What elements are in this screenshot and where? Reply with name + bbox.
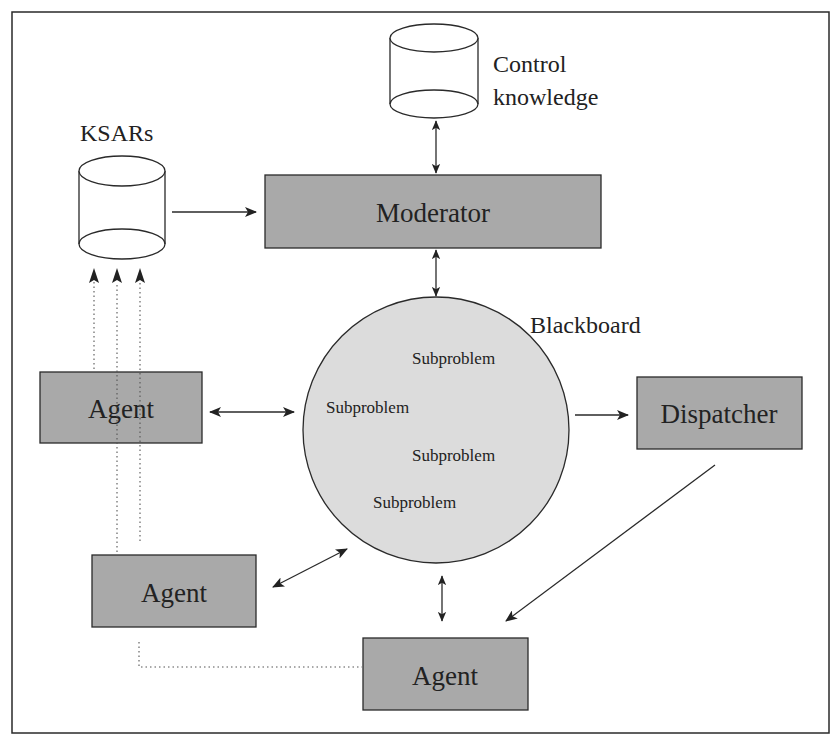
subproblem-item: Subproblem bbox=[412, 349, 495, 368]
agent-node-3: Agent bbox=[363, 638, 528, 710]
subproblem-item: Subproblem bbox=[326, 398, 409, 417]
agent-node-1: Agent bbox=[40, 372, 202, 443]
subproblem-item: Subproblem bbox=[412, 446, 495, 465]
blackboard-label: Blackboard bbox=[530, 312, 641, 338]
subproblem-item: Subproblem bbox=[373, 493, 456, 512]
agent-node-2: Agent bbox=[92, 555, 256, 627]
blackboard-diagram: Control knowledge KSARs Moderator Subpro… bbox=[0, 0, 837, 745]
ksars-label: KSARs bbox=[80, 120, 153, 146]
moderator-label: Moderator bbox=[376, 198, 490, 228]
agent-label: Agent bbox=[88, 394, 154, 424]
dispatcher-node: Dispatcher bbox=[637, 377, 802, 449]
agent-label: Agent bbox=[412, 661, 478, 691]
ksars-store bbox=[79, 156, 165, 259]
control-knowledge-store bbox=[390, 24, 478, 118]
moderator-node: Moderator bbox=[265, 175, 601, 248]
agent-label: Agent bbox=[141, 578, 207, 608]
control-knowledge-label-line2: knowledge bbox=[493, 84, 598, 110]
dispatcher-label: Dispatcher bbox=[661, 399, 778, 429]
control-knowledge-label-line1: Control bbox=[493, 51, 567, 77]
